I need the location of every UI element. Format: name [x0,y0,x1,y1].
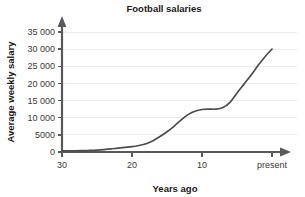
y-axis-label: Average weekly salary [5,41,16,143]
y-axis-arrow-icon [58,16,67,27]
x-axis-arrow-icon [280,148,291,157]
gridlines [62,32,297,135]
y-tick-label: 35 000 [27,27,55,37]
x-axis-label: Years ago [153,183,198,194]
x-axis-ticks: 302010present [57,151,288,170]
y-tick-label: 25 000 [27,61,55,71]
y-tick-label: 0 [50,147,55,157]
y-axis-ticks: 0500010 00015 00020 00025 00030 00035 00… [27,27,63,157]
y-tick-label: 30 000 [27,44,55,54]
x-tick-label: present [257,160,288,170]
chart-container: Football salaries Average weekly salary … [0,0,305,197]
football-salaries-line-chart: Football salaries Average weekly salary … [0,0,305,197]
y-tick-label: 10 000 [27,113,55,123]
x-tick-label: 10 [197,160,207,170]
y-tick-label: 15 000 [27,96,55,106]
y-tick-label: 5000 [35,130,55,140]
salary-trend-line [62,49,272,151]
x-tick-label: 30 [57,160,67,170]
x-tick-label: 20 [127,160,137,170]
chart-title: Football salaries [127,3,202,14]
y-tick-label: 20 000 [27,79,55,89]
